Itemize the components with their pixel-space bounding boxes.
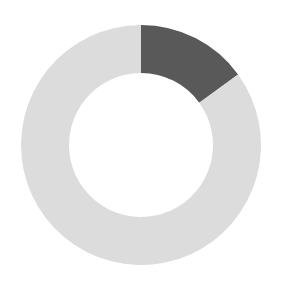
donut-chart-container bbox=[0, 0, 283, 291]
donut-chart-svg bbox=[0, 0, 283, 291]
